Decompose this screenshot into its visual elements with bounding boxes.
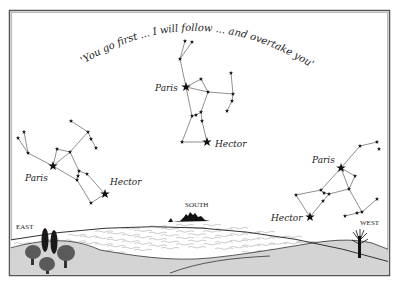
hector-label: Hector — [214, 139, 247, 149]
paris-label: Paris — [311, 155, 335, 165]
cypress-tree — [51, 230, 58, 254]
wave-stroke — [377, 280, 395, 282]
hector-label: Hector — [109, 177, 142, 187]
paris-label: Paris — [154, 83, 178, 93]
direction-south: SOUTH — [185, 201, 208, 209]
diagram-canvas: EAST SOUTH WEST 'You go first ... I will… — [0, 0, 400, 287]
cypress-tree — [42, 228, 49, 252]
hector-label: Hector — [270, 213, 303, 223]
direction-west: WEST — [360, 219, 380, 227]
direction-east: EAST — [16, 223, 34, 231]
paris-label: Paris — [24, 173, 48, 183]
